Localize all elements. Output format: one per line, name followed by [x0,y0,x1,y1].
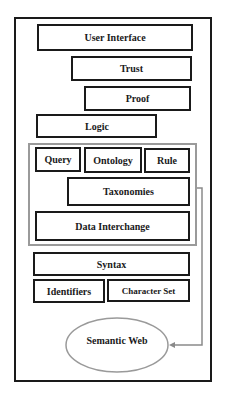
connector-arrow-line [172,188,202,345]
semantic-web-label: Semantic Web [66,335,168,346]
arrowhead-icon [169,342,175,348]
